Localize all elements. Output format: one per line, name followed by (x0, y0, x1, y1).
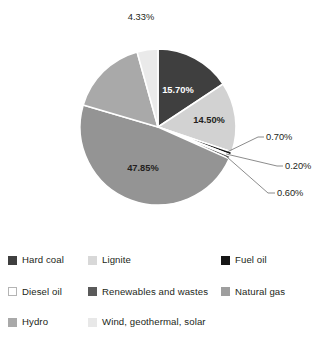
legend-label: Diesel oil (22, 287, 62, 297)
legend-swatch-hard-coal (8, 256, 17, 265)
legend-swatch-diesel-oil (8, 287, 17, 296)
slice-label-renewables-and-wastes: 0.60% (277, 188, 303, 198)
legend-label: Renewables and wastes (102, 287, 208, 297)
legend-item-lignite[interactable]: Lignite (88, 244, 221, 276)
pie-chart-figure: 15.70%14.50%47.85%4.33%0.70%0.20%0.60% H… (0, 0, 330, 341)
legend-swatch-lignite (88, 256, 97, 265)
pie-slices (80, 49, 236, 205)
legend-item-diesel-oil[interactable]: Diesel oil (8, 276, 88, 307)
legend-label: Fuel oil (235, 255, 267, 265)
legend-item-hard-coal[interactable]: Hard coal (8, 244, 88, 276)
legend-swatch-wind (88, 318, 97, 327)
pie-svg: 15.70%14.50%47.85%4.33%0.70%0.20%0.60% (0, 0, 330, 232)
legend-swatch-natural-gas (221, 287, 230, 296)
legend-item-renewables-and-wastes[interactable]: Renewables and wastes (88, 276, 221, 307)
slice-label-fuel-oil: 0.70% (266, 132, 292, 142)
legend-label: Hard coal (22, 255, 64, 265)
legend-item-wind-geothermal-solar[interactable]: Wind, geothermal, solar (88, 307, 221, 337)
pie-plot-area: 15.70%14.50%47.85%4.33%0.70%0.20%0.60% (0, 0, 330, 232)
legend-swatch-fuel-oil (221, 256, 230, 265)
legend-item-fuel-oil[interactable]: Fuel oil (221, 244, 330, 276)
chart-legend: Hard coalLigniteFuel oilDiesel oilRenewa… (0, 244, 330, 341)
slice-label-hard-coal: 15.70% (162, 85, 194, 95)
slice-label-wind-geothermal-solar: 4.33% (128, 12, 154, 22)
legend-item-natural-gas[interactable]: Natural gas (221, 276, 330, 307)
legend-label: Lignite (102, 255, 131, 265)
legend-swatch-renewables (88, 287, 97, 296)
slice-label-diesel-oil: 0.20% (285, 161, 311, 171)
legend-swatch-hydro (8, 318, 17, 327)
legend-label: Hydro (22, 317, 48, 327)
legend-item-hydro[interactable]: Hydro (8, 307, 88, 337)
legend-label: Natural gas (235, 287, 285, 297)
slice-label-natural-gas: 47.85% (127, 163, 159, 173)
leader-line-renewables-and-wastes (226, 156, 276, 193)
slice-label-lignite: 14.50% (193, 115, 225, 125)
legend-label: Wind, geothermal, solar (102, 317, 206, 327)
legend-grid: Hard coalLigniteFuel oilDiesel oilRenewa… (0, 244, 330, 337)
